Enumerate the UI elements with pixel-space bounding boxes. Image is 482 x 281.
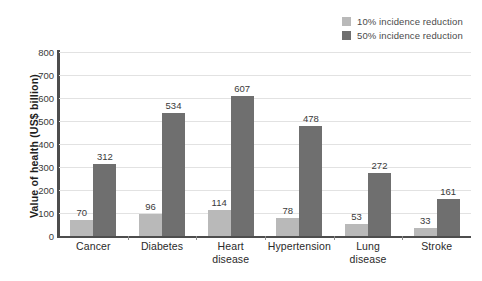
bar: [162, 113, 185, 236]
bar-column: 312: [93, 52, 116, 236]
x-axis-category-label: Stroke: [402, 240, 471, 265]
bar-value-label: 161: [440, 186, 456, 197]
legend-label-10-percent: 10% incidence reduction: [357, 16, 463, 27]
bar-value-label: 53: [351, 211, 362, 222]
y-axis-tick-label: 100: [38, 208, 54, 219]
legend-swatch-light-icon: [342, 17, 351, 26]
bar-group: 96534: [128, 52, 197, 236]
bar: [437, 199, 460, 236]
legend-label-50-percent: 50% incidence reduction: [357, 30, 463, 41]
bar: [368, 173, 391, 236]
bar-value-label: 33: [420, 215, 431, 226]
bar-value-label: 312: [97, 151, 113, 162]
bar: [414, 228, 437, 236]
bar-column: 478: [299, 52, 322, 236]
x-axis-category-label: Diabetes: [128, 240, 197, 265]
bar: [139, 214, 162, 236]
bar-group: 78478: [265, 52, 334, 236]
bar-chart-figure: 10% incidence reduction 50% incidence re…: [0, 0, 482, 281]
y-axis-tick-label: 700: [38, 70, 54, 81]
y-axis-tick-label: 800: [38, 47, 54, 58]
bar-value-label: 478: [303, 113, 319, 124]
bar: [231, 96, 254, 236]
bar-value-label: 78: [283, 205, 294, 216]
bar: [70, 220, 93, 236]
y-axis-tick-label: 600: [38, 93, 54, 104]
bar: [93, 164, 116, 236]
bar-groups: 7031296534114607784785327233161: [59, 52, 471, 236]
bar-group: 70312: [59, 52, 128, 236]
bar-group: 53272: [334, 52, 403, 236]
bar-column: 78: [276, 52, 299, 236]
bar-group: 33161: [402, 52, 471, 236]
bar-column: 33: [414, 52, 437, 236]
bar: [208, 210, 231, 236]
bar-column: 272: [368, 52, 391, 236]
bar-value-label: 96: [145, 201, 156, 212]
bar-value-label: 607: [234, 83, 250, 94]
x-axis-category-label: Lungdisease: [334, 240, 403, 265]
bar-value-label: 114: [212, 197, 227, 208]
bar-column: 161: [437, 52, 460, 236]
bar-column: 70: [70, 52, 93, 236]
y-axis-tick-label: 400: [38, 139, 54, 150]
x-axis-category-label: Cancer: [59, 240, 128, 265]
bar: [345, 224, 368, 236]
y-axis-tick-label: 200: [38, 185, 54, 196]
plot-area: 8007006005004003002001000 70312965341146…: [59, 52, 471, 236]
bar: [299, 126, 322, 236]
x-axis-category-label: Hypertension: [265, 240, 334, 265]
bar-column: 114: [208, 52, 231, 236]
legend-swatch-dark-icon: [342, 31, 351, 40]
legend-item-50-percent: 50% incidence reduction: [342, 30, 463, 41]
x-axis-category-label: Heartdisease: [196, 240, 265, 265]
bar-value-label: 70: [77, 207, 88, 218]
y-axis-tick-label: 0: [49, 231, 54, 242]
bar-column: 53: [345, 52, 368, 236]
x-axis-category-labels: CancerDiabetesHeartdiseaseHypertensionLu…: [59, 240, 471, 265]
legend-item-10-percent: 10% incidence reduction: [342, 16, 463, 27]
chart-legend: 10% incidence reduction 50% incidence re…: [342, 16, 463, 41]
bar-column: 607: [231, 52, 254, 236]
bar-value-label: 534: [166, 100, 182, 111]
y-axis-tick-label: 300: [38, 162, 54, 173]
bar-value-label: 272: [372, 160, 388, 171]
bar-column: 96: [139, 52, 162, 236]
bar-group: 114607: [196, 52, 265, 236]
y-axis-tick-label: 500: [38, 116, 54, 127]
bar-column: 534: [162, 52, 185, 236]
bar: [276, 218, 299, 236]
